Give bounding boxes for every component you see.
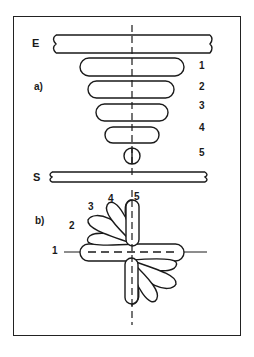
plate-label-s: S [33,171,40,183]
step-b-5: 5 [134,191,140,202]
step-a-2: 2 [199,81,205,92]
step-b-2: 2 [69,220,75,231]
step-a-4: 4 [199,122,205,133]
weld-b-fan-lower [109,259,179,306]
step-a-5: 5 [199,147,205,158]
plate-s [50,172,207,182]
step-b-1: 1 [52,245,58,256]
step-b-3: 3 [88,201,94,212]
plate-label-e: E [32,37,39,49]
weld-b-fan-upper [85,199,155,246]
weld-a-2 [88,81,174,98]
step-a-3: 3 [199,100,205,111]
part-b-label: b) [35,215,44,226]
part-a-label: a) [34,81,43,92]
step-b-4: 4 [108,193,114,204]
step-a-1: 1 [199,60,205,71]
plate-e [54,35,213,53]
